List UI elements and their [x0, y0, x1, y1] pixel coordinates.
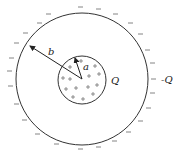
positive-charges — [61, 59, 101, 101]
diagram-canvas: b a Q -Q — [0, 0, 186, 156]
label-outer-charge: -Q — [161, 74, 173, 85]
inner-sphere — [58, 56, 106, 104]
label-b: b — [48, 46, 54, 57]
label-inner-charge: Q — [111, 75, 119, 86]
label-a: a — [83, 61, 89, 72]
radius-b-arrow — [30, 46, 82, 79]
